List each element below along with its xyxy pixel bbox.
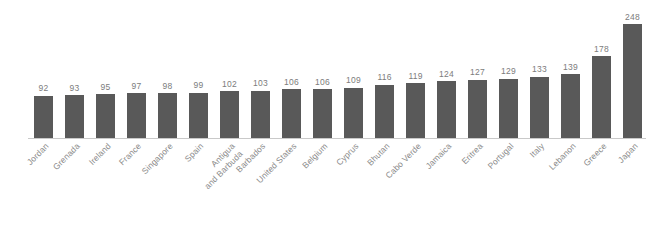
bar-slot[interactable]: 103 (245, 8, 276, 138)
bar-value-label: 129 (501, 67, 516, 76)
bar-slot[interactable]: 124 (431, 8, 462, 138)
x-tick-slot: Japan (617, 139, 648, 140)
bar[interactable] (530, 77, 549, 138)
bar-value-label: 124 (439, 70, 454, 79)
x-tick-label[interactable]: Lebanon (547, 141, 578, 172)
bar[interactable] (220, 91, 239, 138)
bar[interactable] (313, 89, 332, 138)
bar-series: 9293959798991021031061061091161191241271… (28, 8, 648, 138)
bar-slot[interactable]: 92 (28, 8, 59, 138)
x-tick-label-line: Jamaica (424, 141, 454, 171)
bar-slot[interactable]: 248 (617, 8, 648, 138)
bar-value-label: 139 (563, 63, 578, 72)
bar-slot[interactable]: 102 (214, 8, 245, 138)
bar[interactable] (592, 56, 611, 138)
bar-slot[interactable]: 97 (121, 8, 152, 138)
x-tick-label[interactable]: Bhutan (365, 141, 392, 168)
bar[interactable] (406, 83, 425, 138)
bar-slot[interactable]: 106 (276, 8, 307, 138)
bar[interactable] (375, 85, 394, 138)
x-tick-slot: Greece (586, 139, 617, 140)
x-tick-label-line: Ireland (87, 141, 113, 167)
x-tick-label-line: Jordan (25, 141, 51, 167)
x-tick-slot: Cabo Verde (400, 139, 431, 140)
x-tick-label[interactable]: Belgium (300, 141, 330, 171)
x-tick-label[interactable]: Singapore (139, 141, 175, 177)
bar-slot[interactable]: 129 (493, 8, 524, 138)
bar-value-label: 93 (70, 84, 80, 93)
x-tick-label[interactable]: Portugal (486, 141, 516, 171)
x-tick-slot: Ireland (90, 139, 121, 140)
x-tick-slot: Barbados (245, 139, 276, 140)
x-tick-label[interactable]: Spain (183, 141, 206, 164)
bar[interactable] (282, 89, 301, 138)
bar[interactable] (96, 94, 115, 138)
x-tick-label-line: France (117, 141, 143, 167)
x-tick-slot: Eritrea (462, 139, 493, 140)
x-tick-slot: Grenada (59, 139, 90, 140)
x-tick-slot: Belgium (307, 139, 338, 140)
x-tick-slot: Jamaica (431, 139, 462, 140)
bar-value-label: 92 (39, 84, 49, 93)
bar[interactable] (65, 95, 84, 138)
x-tick-label-line: Greece (581, 141, 608, 168)
x-tick-label[interactable]: Japan (616, 141, 640, 165)
x-tick-label-line: Eritrea (459, 141, 484, 166)
bar-slot[interactable]: 178 (586, 8, 617, 138)
bar-value-label: 119 (408, 72, 422, 81)
bar[interactable] (437, 81, 456, 138)
bar-value-label: 109 (346, 76, 361, 85)
bar-value-label: 116 (377, 73, 391, 82)
bar[interactable] (34, 96, 53, 138)
bar-value-label: 106 (315, 78, 330, 87)
bar[interactable] (623, 24, 642, 138)
x-tick-label-line: Bhutan (365, 141, 392, 168)
x-tick-label[interactable]: Grenada (51, 141, 82, 172)
x-tick-label[interactable]: Eritrea (459, 141, 485, 167)
bar-value-label: 98 (163, 82, 173, 91)
bar-slot[interactable]: 133 (524, 8, 555, 138)
bar-slot[interactable]: 116 (369, 8, 400, 138)
bar-value-label: 97 (132, 82, 142, 91)
bar-slot[interactable]: 99 (183, 8, 214, 138)
bar-value-label: 248 (625, 13, 640, 22)
bar-slot[interactable]: 98 (152, 8, 183, 138)
bar[interactable] (499, 79, 518, 138)
x-tick-label[interactable]: Ireland (87, 141, 113, 167)
bar-value-label: 133 (532, 65, 547, 74)
bar[interactable] (189, 93, 208, 139)
x-tick-slot: Portugal (493, 139, 524, 140)
bar[interactable] (468, 80, 487, 138)
x-tick-label-line: Portugal (486, 141, 516, 171)
bar[interactable] (127, 93, 146, 138)
bar-slot[interactable]: 93 (59, 8, 90, 138)
x-tick-label[interactable]: Cyprus (334, 141, 361, 168)
x-tick-label[interactable]: Italy (528, 141, 547, 160)
x-tick-slot: United States (276, 139, 307, 140)
x-tick-slot: Cyprus (338, 139, 369, 140)
bar-slot[interactable]: 109 (338, 8, 369, 138)
bar[interactable] (158, 93, 177, 138)
x-tick-label[interactable]: France (117, 141, 144, 168)
bar-value-label: 95 (101, 83, 111, 92)
bar-slot[interactable]: 139 (555, 8, 586, 138)
x-tick-label[interactable]: Jordan (25, 141, 51, 167)
x-tick-slot: France (121, 139, 152, 140)
x-tick-label-line: Lebanon (547, 141, 578, 172)
bar-slot[interactable]: 95 (90, 8, 121, 138)
x-tick-label-line: Italy (528, 141, 546, 159)
bar-value-label: 103 (253, 79, 268, 88)
bar[interactable] (344, 88, 363, 138)
bar-slot[interactable]: 127 (462, 8, 493, 138)
x-tick-label[interactable]: Jamaica (424, 141, 454, 171)
bar-slot[interactable]: 119 (400, 8, 431, 138)
bar[interactable] (561, 74, 580, 138)
x-tick-label[interactable]: Greece (581, 141, 609, 169)
x-tick-label-line: Spain (183, 141, 206, 164)
plot-area: 9293959798991021031061061091161191241271… (28, 8, 648, 138)
bar-slot[interactable]: 106 (307, 8, 338, 138)
bar[interactable] (251, 91, 270, 138)
x-axis-tick-labels: JordanGrenadaIrelandFranceSingaporeSpain… (28, 139, 648, 229)
x-tick-slot: Singapore (152, 139, 183, 140)
x-tick-slot: Lebanon (555, 139, 586, 140)
